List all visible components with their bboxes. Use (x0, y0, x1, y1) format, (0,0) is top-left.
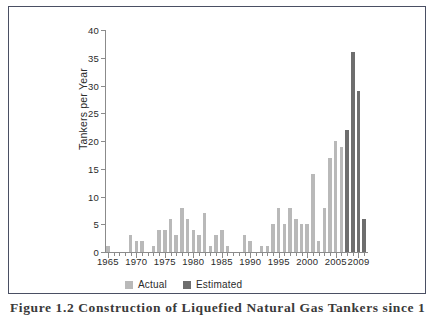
x-tick-mark (364, 253, 365, 256)
y-tick-label: 25 (69, 108, 99, 119)
y-tick-label: 20 (69, 136, 99, 147)
bar-actual-2004 (328, 158, 332, 252)
bar-actual-1982 (203, 213, 207, 252)
x-tick-mark (131, 253, 132, 256)
x-tick-mark (153, 253, 154, 256)
x-tick-mark (341, 253, 342, 256)
bar-estimated-2008 (351, 52, 355, 252)
chart-legend: ActualEstimated (125, 279, 242, 290)
x-tick-mark (267, 253, 268, 256)
x-tick-mark (193, 253, 194, 258)
figure-page: Tankers per Year 0510152025303540 196519… (0, 0, 436, 316)
x-tick-mark (302, 253, 303, 256)
x-tick-mark (250, 253, 251, 258)
x-tick-mark (233, 253, 234, 256)
x-tick-mark (176, 253, 177, 256)
x-tick-mark (324, 253, 325, 256)
x-tick-mark (125, 253, 126, 256)
figure-frame: Tankers per Year 0510152025303540 196519… (8, 6, 426, 294)
bar-actual-1999 (300, 224, 304, 252)
y-tick-label: 5 (69, 219, 99, 230)
y-tick-label: 30 (69, 80, 99, 91)
bar-actual-1994 (271, 224, 275, 252)
x-tick-mark (239, 253, 240, 256)
x-tick-mark (171, 253, 172, 256)
x-tick-mark (262, 253, 263, 256)
bar-actual-1992 (260, 246, 264, 252)
bar-actual-1995 (277, 208, 281, 252)
x-tick-mark (313, 253, 314, 256)
y-tick-mark (101, 252, 105, 253)
bar-actual-1969 (129, 235, 133, 252)
bar-actual-1986 (226, 246, 230, 252)
bar-actual-1976 (169, 219, 173, 252)
bar-actual-1981 (197, 235, 201, 252)
bar-actual-2006 (340, 147, 344, 252)
legend-label: Actual (138, 279, 167, 290)
bar-actual-1984 (214, 235, 218, 252)
x-tick-mark (222, 253, 223, 258)
x-tick-mark (256, 253, 257, 256)
x-tick-mark (205, 253, 206, 256)
x-tick-mark (353, 253, 354, 256)
bar-actual-1990 (248, 241, 252, 252)
x-tick-mark (330, 253, 331, 256)
bar-actual-1993 (266, 246, 270, 252)
x-axis-line (105, 252, 368, 253)
x-tick-mark (290, 253, 291, 256)
bar-actual-1965 (106, 246, 110, 252)
x-tick-mark (216, 253, 217, 256)
x-tick-mark (188, 253, 189, 256)
x-tick-mark (165, 253, 166, 258)
figure-caption: Figure 1.2 Construction of Liquefied Nat… (10, 300, 430, 316)
x-tick-mark (114, 253, 115, 256)
legend-swatch-icon (125, 281, 133, 289)
x-tick-mark (358, 253, 359, 258)
y-tick-label: 15 (69, 163, 99, 174)
x-tick-mark (227, 253, 228, 256)
x-tick-mark (182, 253, 183, 256)
legend-item-actual[interactable]: Actual (125, 279, 167, 290)
bar-actual-1977 (174, 235, 178, 252)
x-tick-mark (279, 253, 280, 258)
bar-actual-1973 (152, 246, 156, 252)
bar-actual-1980 (192, 230, 196, 252)
y-tick-label: 40 (69, 25, 99, 36)
x-tick-mark (336, 253, 337, 258)
bar-actual-1998 (294, 219, 298, 252)
x-tick-mark (119, 253, 120, 256)
y-tick-label: 35 (69, 52, 99, 63)
y-tick-label: 0 (69, 247, 99, 258)
x-tick-mark (108, 253, 109, 258)
bar-actual-1996 (283, 224, 287, 252)
bar-actual-1971 (140, 241, 144, 252)
x-tick-mark (159, 253, 160, 256)
x-tick-mark (142, 253, 143, 256)
x-tick-mark (284, 253, 285, 256)
bar-actual-1970 (135, 241, 139, 252)
bar-actual-1989 (243, 235, 247, 252)
bar-estimated-2010 (362, 219, 366, 252)
bar-actual-2003 (323, 208, 327, 252)
bar-actual-1975 (163, 230, 167, 252)
x-tick-mark (307, 253, 308, 258)
bar-actual-1978 (180, 208, 184, 252)
bar-actual-1974 (157, 230, 161, 252)
bar-actual-1983 (209, 246, 213, 252)
bar-actual-1985 (220, 230, 224, 252)
bar-actual-1997 (288, 208, 292, 252)
x-tick-mark (347, 253, 348, 256)
x-tick-mark (148, 253, 149, 256)
x-tick-mark (273, 253, 274, 256)
bar-actual-2001 (311, 174, 315, 252)
bar-actual-2000 (305, 224, 309, 252)
bar-estimated-2009 (357, 91, 361, 252)
x-tick-mark (319, 253, 320, 256)
x-tick-mark (245, 253, 246, 256)
bar-series-container (105, 30, 368, 252)
bar-estimated-2007 (345, 130, 349, 252)
x-tick-mark (210, 253, 211, 256)
legend-item-estimated[interactable]: Estimated (183, 279, 242, 290)
bar-actual-2002 (317, 241, 321, 252)
y-tick-label: 10 (69, 191, 99, 202)
